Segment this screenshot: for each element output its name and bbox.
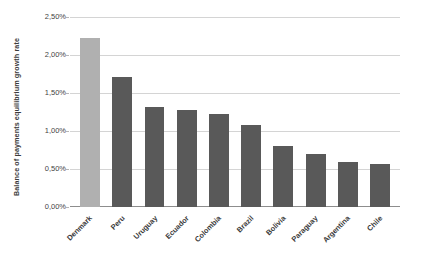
y-tick-label: 2,50% [26,13,66,21]
bar-uruguay[interactable] [145,107,165,207]
bar-slot [171,17,203,207]
y-tick-label: 2,00% [26,51,66,59]
bar-slot [332,17,364,207]
x-label-slot: Colombia [203,209,235,263]
y-axis-title: Balance of payments equilibrium growth r… [10,12,24,222]
y-tick-label: 1,50% [26,89,66,97]
x-axis-label-bolivia: Bolivia [265,214,288,237]
bar-slot [364,17,396,207]
y-tick-mark [66,55,69,56]
x-label-slot: Brazil [235,209,267,263]
y-tick-label: 0,50% [26,165,66,173]
x-axis-label-peru: Peru [109,214,126,231]
y-tick-label: 0,00% [26,203,66,211]
bar-slot [106,17,138,207]
bar-chart: Balance of payments equilibrium growth r… [0,0,422,263]
bar-slot [203,17,235,207]
y-tick-mark [66,131,69,132]
y-tick-mark [66,207,69,208]
y-tick-mark [66,17,69,18]
x-axis-labels: DenmarkPeruUruguayEcuadorColombiaBrazilB… [70,209,400,263]
bar-slot [138,17,170,207]
bar-ecuador[interactable] [177,110,197,207]
bar-paraguay[interactable] [306,154,326,207]
y-tick-label: 1,00% [26,127,66,135]
x-label-slot: Argentina [332,209,364,263]
plot-area [70,17,400,207]
bar-slot [74,17,106,207]
bar-slot [299,17,331,207]
y-axis-ticks: 2,50%2,00%1,50%1,00%0,50%0,00% [26,0,66,263]
y-tick-mark [66,169,69,170]
bar-brazil[interactable] [241,125,261,207]
x-label-slot: Denmark [74,209,106,263]
x-label-slot: Chile [364,209,396,263]
bar-slot [267,17,299,207]
bar-peru[interactable] [112,77,132,207]
bar-slot [235,17,267,207]
x-axis-label-brazil: Brazil [235,214,255,234]
bar-chile[interactable] [370,164,390,207]
y-tick-mark [66,93,69,94]
bar-argentina[interactable] [338,162,358,207]
bars-layer [70,17,400,207]
bar-colombia[interactable] [209,114,229,207]
bar-denmark[interactable] [80,38,100,207]
bar-bolivia[interactable] [273,146,293,207]
x-axis-label-chile: Chile [366,214,384,232]
x-axis-label-denmark: Denmark [66,214,94,242]
